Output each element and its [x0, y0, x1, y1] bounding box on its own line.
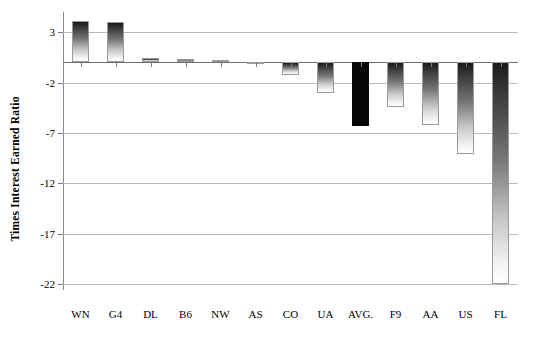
y-tick-label: -22 — [40, 278, 55, 290]
y-tick-mark — [58, 183, 63, 184]
y-tick-mark — [58, 234, 63, 235]
bar-us — [457, 62, 475, 154]
chart-container: Times Interest Earned Ratio 3-2-7-12-17-… — [0, 0, 541, 338]
y-tick-mark — [58, 83, 63, 84]
gridline-y — [63, 83, 518, 84]
y-tick-label: -7 — [46, 127, 55, 139]
bar-avg — [352, 62, 370, 125]
x-tick-label-as: AS — [248, 308, 262, 320]
x-tick-label-wn: WN — [71, 308, 89, 320]
gridline-y — [63, 284, 518, 285]
bar-wn — [72, 21, 90, 62]
y-axis-line — [63, 12, 64, 290]
gridline-y — [63, 234, 518, 235]
y-axis-title: Times Interest Earned Ratio — [0, 0, 30, 338]
x-tick-label-fl: FL — [494, 308, 507, 320]
x-tick-label-us: US — [458, 308, 472, 320]
x-tick-mark — [466, 62, 467, 67]
x-tick-label-co: CO — [283, 308, 298, 320]
y-tick-label: -12 — [40, 177, 55, 189]
x-tick-mark — [431, 62, 432, 67]
x-tick-mark — [326, 62, 327, 67]
x-tick-label-nw: NW — [211, 308, 229, 320]
x-tick-mark — [116, 62, 117, 67]
gridline-y — [63, 32, 518, 33]
x-tick-label-b6: B6 — [179, 308, 192, 320]
x-tick-label-dl: DL — [143, 308, 158, 320]
x-tick-mark — [186, 62, 187, 67]
x-tick-mark — [361, 62, 362, 67]
y-tick-mark — [58, 32, 63, 33]
bar-f9 — [387, 62, 405, 106]
y-tick-label: 3 — [50, 26, 56, 38]
x-tick-mark — [221, 62, 222, 67]
x-tick-label-g4: G4 — [109, 308, 122, 320]
gridline-y — [63, 133, 518, 134]
x-tick-label-f9: F9 — [390, 308, 402, 320]
y-tick-mark — [58, 284, 63, 285]
y-tick-label: -17 — [40, 228, 55, 240]
x-tick-label-aa: AA — [423, 308, 439, 320]
x-tick-mark — [256, 62, 257, 67]
x-tick-mark — [501, 62, 502, 67]
x-tick-mark — [396, 62, 397, 67]
x-tick-label-ua: UA — [318, 308, 334, 320]
x-tick-mark — [81, 62, 82, 67]
bar-aa — [422, 62, 440, 124]
bar-fl — [492, 62, 510, 284]
plot-area: 3-2-7-12-17-22WNG4DLB6NWASCOUAAVG.F9AAUS… — [63, 12, 518, 290]
gridline-y — [63, 183, 518, 184]
bar-g4 — [107, 22, 125, 62]
y-tick-label: -2 — [46, 77, 55, 89]
y-tick-mark — [58, 133, 63, 134]
x-tick-label-avg: AVG. — [348, 308, 373, 320]
x-tick-mark — [291, 62, 292, 67]
x-tick-mark — [151, 62, 152, 67]
